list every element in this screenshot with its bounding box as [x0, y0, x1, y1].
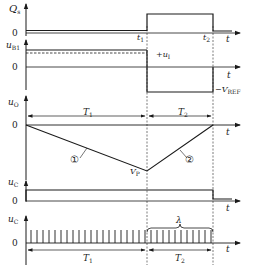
guide-lines — [147, 26, 213, 265]
uc-t-label: t — [226, 204, 230, 213]
t2-label: t2 — [203, 34, 210, 43]
clock-pulses — [31, 230, 211, 243]
ub1-t-label: t — [227, 71, 231, 80]
t1-interval-label: T1 — [83, 108, 93, 118]
t1-label: t1 — [137, 34, 144, 43]
ub1-zero-label: 0 — [12, 63, 18, 72]
lambda-label: λ — [176, 216, 182, 225]
qs-axis-label: Qs — [9, 4, 20, 15]
vp-label: VP — [130, 168, 140, 177]
timing-diagram: Qs 0 t1 t2 t uB1 0 +uI t −VREF uO 0 T1 T… — [0, 0, 254, 271]
uc-zero-label: 0 — [12, 197, 18, 206]
minus-vref-label: −VREF — [215, 86, 241, 95]
uc-pulse-t-label: t — [226, 245, 230, 254]
t1-bottom-interval-label: T1 — [83, 254, 93, 264]
diagram-lines — [0, 0, 254, 271]
uo-zero-label: 0 — [12, 121, 18, 130]
uo-axis-label: uO — [8, 98, 19, 108]
uc-axis-label: uC — [8, 178, 18, 188]
t2-interval-label: T2 — [178, 108, 188, 118]
uo-t-label: t — [226, 128, 230, 137]
plus-ui-label: +uI — [156, 51, 170, 60]
uc-pulse-zero-label: 0 — [12, 239, 18, 248]
qs-zero-label: 0 — [12, 29, 18, 38]
curve-1-label: ① — [70, 155, 79, 165]
t2-bottom-interval-label: T2 — [175, 254, 185, 264]
uc-pulse-axis-label: uC — [8, 215, 18, 225]
curve-2-label: ② — [185, 155, 194, 165]
ub1-axis-label: uB1 — [6, 41, 20, 51]
qs-t-label: t — [226, 35, 230, 44]
